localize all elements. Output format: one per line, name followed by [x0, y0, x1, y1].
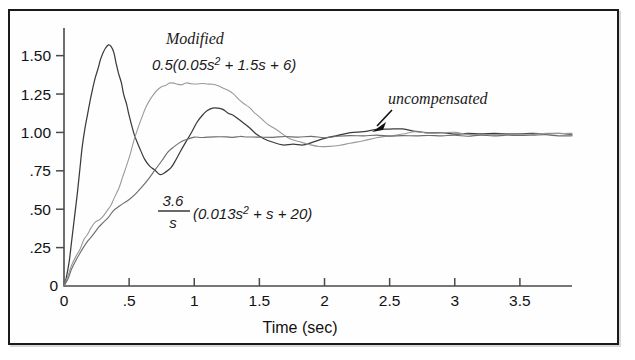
- x-tick-label: .5: [123, 292, 136, 309]
- y-tick-label-group: .25.50.751.001.251.50: [21, 47, 52, 256]
- x-tick-label: 2.5: [379, 292, 401, 309]
- y-tick-label: 1.50: [21, 47, 52, 64]
- x-tick-label: 3.5: [509, 292, 531, 309]
- uncompensated-label: uncompensated: [388, 90, 489, 108]
- curve-modified-light-overshoot: [64, 83, 572, 287]
- step-response-chart: .25.50.751.001.251.50 0.511.522.533.5 0 …: [0, 0, 635, 360]
- fraction-numerator: 3.6: [163, 192, 185, 209]
- x-tick-label: 2: [320, 292, 329, 309]
- y-tick-label: .25: [29, 239, 51, 256]
- curve-group: [64, 45, 573, 287]
- x-tick-label: 3: [450, 292, 459, 309]
- modified-formula: 0.5(0.05s2 + 1.5s + 6): [152, 55, 296, 73]
- modified-formula-main: 0.5(0.05s: [152, 56, 215, 73]
- axis-group: [64, 28, 572, 286]
- curve-modified-0.5(0.05s^2+1.5s+6): [64, 45, 572, 286]
- uncomp-formula-tail: + s + 20): [249, 205, 312, 222]
- y-origin-label: 0: [49, 277, 58, 294]
- x-tick-group: [129, 278, 520, 286]
- modified-formula-tail: + 1.5s + 6): [220, 56, 296, 73]
- x-tick-label: 1.5: [249, 292, 271, 309]
- figure-root: .25.50.751.001.251.50 0.511.522.533.5 0 …: [0, 0, 635, 360]
- y-tick-label: 1.25: [21, 86, 51, 103]
- y-tick-label: .50: [29, 201, 51, 218]
- uncompensated-formula-group: 3.6 s (0.013s2 + s + 20): [158, 192, 312, 231]
- uncompensated-formula: (0.013s2 + s + 20): [193, 204, 312, 222]
- fraction-denominator: s: [169, 214, 177, 231]
- y-tick-label: 1.00: [21, 124, 52, 141]
- y-tick-group: [56, 56, 64, 248]
- modified-label: Modified: [165, 30, 225, 48]
- curve-uncompensated-3.6/s(0.013s^2+s+20): [64, 135, 572, 286]
- y-tick-label: .75: [29, 162, 51, 179]
- x-tick-label-group: 0.511.522.533.5: [60, 292, 531, 309]
- x-tick-label: 1: [190, 292, 199, 309]
- uncomp-formula-main: (0.013s: [193, 205, 244, 222]
- x-axis-title: Time (sec): [263, 319, 338, 336]
- x-tick-label: 0: [60, 292, 69, 309]
